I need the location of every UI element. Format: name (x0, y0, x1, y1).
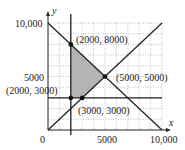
y-axis-arrow-icon (46, 11, 50, 16)
vertex-label-2000-3000: (2000, 3000) (6, 85, 58, 97)
x-axis-arrow-icon (166, 128, 171, 132)
x-tick-5000: 5000 (97, 134, 117, 145)
x-tick-10000: 10,000 (150, 134, 178, 145)
vertex-3000-3000 (80, 96, 85, 101)
y-tick-10000: 10,000 (15, 18, 43, 29)
y-axis-label: y (51, 5, 57, 16)
origin-label: 0 (40, 134, 45, 145)
vertex-2000-8000 (69, 42, 74, 47)
vertex-label-2000-8000: (2000, 8000) (76, 34, 128, 46)
vertex-label-3000-3000: (3000, 3000) (78, 105, 130, 117)
vertex-label-5000-5000: (5000, 5000) (116, 72, 168, 84)
x-axis-label: x (168, 117, 174, 128)
y-tick-5000: 5000 (24, 72, 44, 83)
feasible-region-chart: y x 0 5000 10,000 10,000 5000 (2000, 800… (0, 0, 185, 150)
vertex-5000-5000 (103, 74, 108, 79)
vertex-2000-3000 (69, 96, 74, 101)
